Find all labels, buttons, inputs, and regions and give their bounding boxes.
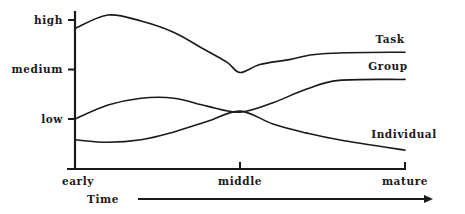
series-label-group: Group bbox=[368, 60, 407, 72]
x-tick-label: early bbox=[62, 175, 94, 187]
time-arrow-head-icon bbox=[424, 195, 433, 203]
series-label-task: Task bbox=[375, 33, 404, 45]
x-tick-label: mature bbox=[382, 175, 428, 187]
y-tick-label: high bbox=[34, 14, 63, 26]
x-tick-label: middle bbox=[218, 175, 262, 187]
series-lines bbox=[75, 15, 405, 150]
y-tick-label: low bbox=[41, 113, 63, 125]
series-line-task bbox=[75, 15, 405, 73]
series-line-individual bbox=[75, 111, 405, 150]
chart-canvas: lowmediumhigh earlymiddlemature TaskGrou… bbox=[0, 0, 465, 214]
series-line-group bbox=[75, 79, 405, 119]
series-labels: TaskGroupIndividual bbox=[368, 33, 437, 140]
series-label-individual: Individual bbox=[371, 128, 437, 140]
x-axis-title: Time bbox=[87, 193, 119, 205]
y-tick-label: medium bbox=[12, 63, 63, 75]
y-ticks: lowmediumhigh bbox=[12, 14, 75, 125]
x-ticks: earlymiddlemature bbox=[62, 162, 428, 187]
